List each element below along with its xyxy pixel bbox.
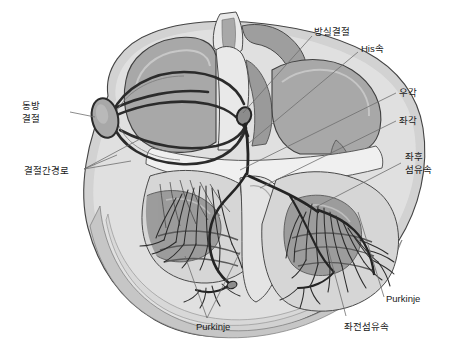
- label-right-bundle-branch-text: 우각: [399, 87, 417, 100]
- label-purkinje-left: Purkinje: [196, 321, 230, 334]
- label-left-bundle-branch: 좌각: [399, 115, 417, 128]
- label-right-bundle-branch: 우각: [399, 87, 417, 100]
- label-his-bundle-text: His속: [361, 43, 384, 56]
- label-sa-node: 동방 결절: [22, 100, 40, 125]
- label-internodal-pathway: 결절간경로: [24, 165, 69, 178]
- label-purkinje-right: Purkinje: [386, 293, 420, 306]
- cardiac-conduction-diagram: 동방 결절 결절간경로 방실결절 His속 우각 좌각 좌후 섬유속 Purki…: [0, 0, 458, 358]
- label-left-posterior-fascicle-line1: 좌후: [405, 151, 432, 164]
- label-left-posterior-fascicle: 좌후 섬유속: [405, 151, 432, 176]
- label-left-posterior-fascicle-line2: 섬유속: [405, 164, 432, 177]
- label-left-anterior-fascicle: 좌전섬유속: [344, 321, 389, 334]
- label-internodal-pathway-text: 결절간경로: [24, 165, 69, 178]
- label-av-node-text: 방실결절: [314, 26, 350, 39]
- label-left-bundle-branch-text: 좌각: [399, 115, 417, 128]
- label-av-node: 방실결절: [314, 26, 350, 39]
- label-sa-node-line2: 결절: [22, 113, 40, 126]
- label-purkinje-right-text: Purkinje: [386, 293, 420, 306]
- label-purkinje-left-text: Purkinje: [196, 321, 230, 334]
- label-left-anterior-fascicle-text: 좌전섬유속: [344, 321, 389, 334]
- label-sa-node-line1: 동방: [22, 100, 40, 113]
- label-his-bundle: His속: [361, 43, 384, 56]
